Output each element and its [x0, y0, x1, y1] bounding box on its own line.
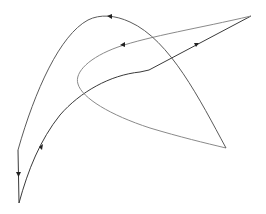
flow-diagram: [0, 0, 266, 214]
arrow-icon-left-vertical: [16, 172, 21, 177]
arrow-icon-peak: [107, 14, 112, 19]
arrow-icon-upper-right: [194, 43, 199, 47]
straight-to-upper-right: [149, 16, 251, 70]
